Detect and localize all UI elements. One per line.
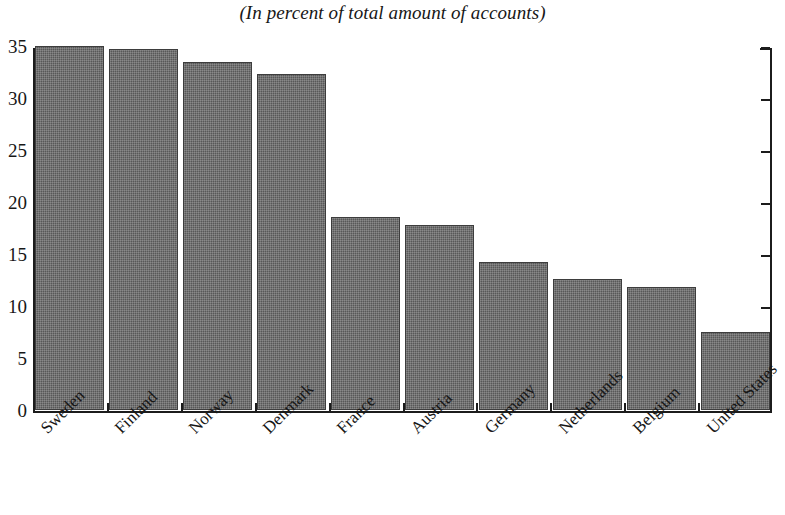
y-axis-tick-label: 25 [0, 140, 27, 162]
plot-area [33, 48, 772, 412]
bar [331, 217, 400, 410]
y-axis-tick-label: 20 [0, 192, 27, 214]
y-axis-tick-right [761, 255, 770, 257]
bar [257, 74, 326, 410]
bar [479, 262, 548, 410]
y-axis-tick-right [761, 99, 770, 101]
bar [109, 49, 178, 410]
y-axis-tick [35, 411, 44, 413]
bar-chart-figure: (In percent of total amount of accounts)… [0, 0, 785, 515]
y-axis-tick-label: 10 [0, 296, 27, 318]
y-axis-tick-right [761, 307, 770, 309]
bar [183, 62, 252, 410]
y-axis-right-line [770, 48, 772, 413]
y-axis-tick-label: 35 [0, 36, 27, 58]
bar [35, 46, 104, 410]
y-axis-tick-right [761, 151, 770, 153]
y-axis-tick-right [761, 203, 770, 205]
chart-title: (In percent of total amount of accounts) [0, 2, 785, 24]
y-axis-tick-label: 30 [0, 88, 27, 110]
y-axis-tick-right [761, 411, 770, 413]
bar [405, 225, 474, 410]
y-axis-tick-label: 0 [0, 400, 27, 422]
y-axis-tick-right [761, 47, 770, 49]
y-axis-tick-label: 5 [0, 348, 27, 370]
y-axis-tick-label: 15 [0, 244, 27, 266]
